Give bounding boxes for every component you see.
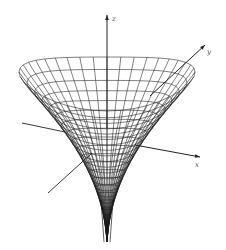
funnel-surface-figure: z y x xyxy=(0,0,226,250)
z-axis-arrowhead xyxy=(105,15,109,20)
mesh-radial-line xyxy=(107,77,194,242)
mesh-radial-line xyxy=(23,81,107,241)
mesh-radial-line xyxy=(107,81,191,241)
mesh-radial-line xyxy=(107,72,195,241)
mesh-radial-line xyxy=(20,77,107,242)
y-axis-label: y xyxy=(206,48,212,56)
mesh-radial-line xyxy=(67,106,107,242)
wireframe-plot: z y x xyxy=(0,0,226,250)
x-axis-label: x xyxy=(195,161,199,169)
mesh-radial-line xyxy=(19,72,107,241)
z-axis-label: z xyxy=(111,15,116,23)
axes-front xyxy=(105,15,205,158)
y-axis-negative-line xyxy=(48,153,92,193)
x-axis-line xyxy=(135,145,200,157)
mesh-radial-line xyxy=(107,106,147,242)
